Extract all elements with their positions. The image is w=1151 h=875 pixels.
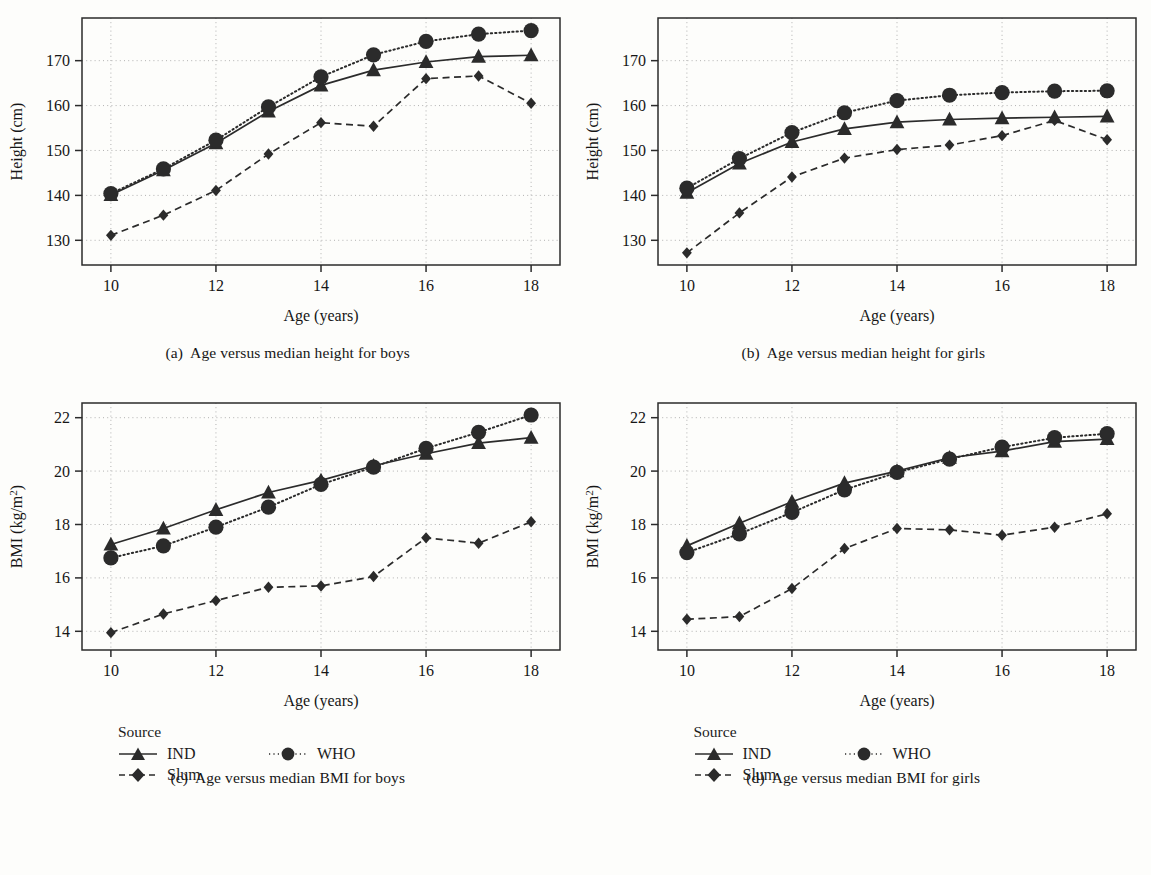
diamond-marker <box>839 152 849 163</box>
y-tick-label: 150 <box>622 142 646 159</box>
y-tick-label: 170 <box>46 52 70 69</box>
circle-marker <box>418 34 433 49</box>
y-tick-label: 160 <box>46 97 70 114</box>
caption-d: (d)Age versus median BMI for girls <box>576 765 1151 875</box>
y-axis-title: BMI (kg/m2) <box>583 485 602 568</box>
x-tick-label: 10 <box>678 277 694 294</box>
circle-marker <box>261 500 276 515</box>
diamond-marker <box>474 537 484 548</box>
plot-area-a: 1012141618130140150160170Age (years)Heig… <box>8 18 560 325</box>
circle-marker <box>836 482 851 497</box>
figure-panel-grid: 1012141618130140150160170Age (years)Heig… <box>0 0 1151 875</box>
y-tick-label: 16 <box>630 569 646 586</box>
caption-a-text: Age versus median height for boys <box>190 344 410 361</box>
triangle-marker <box>524 430 539 444</box>
y-tick-label: 140 <box>46 187 70 204</box>
diamond-marker <box>106 230 116 241</box>
diamond-marker <box>997 130 1007 141</box>
x-tick-label: 12 <box>208 662 224 679</box>
y-axis-title: Height (cm) <box>8 103 26 181</box>
x-tick-label: 10 <box>103 277 119 294</box>
x-axis-title: Age (years) <box>283 307 358 325</box>
circle-marker <box>103 186 118 201</box>
circle-marker <box>471 425 486 440</box>
circle-marker <box>836 105 851 120</box>
diamond-marker <box>316 580 326 591</box>
diamond-marker <box>734 207 744 218</box>
legend-item-ind-right[interactable]: IND <box>694 744 844 764</box>
circle-marker-icon <box>268 744 308 764</box>
legend-label-who-left: WHO <box>317 745 355 763</box>
caption-d-label: (d) <box>746 769 764 786</box>
circle-marker <box>784 505 799 520</box>
circle-marker <box>366 47 381 62</box>
plot-frame <box>658 18 1136 265</box>
y-tick-label: 20 <box>54 463 70 480</box>
y-tick-label: 22 <box>54 409 70 426</box>
diamond-marker <box>839 543 849 554</box>
circle-marker <box>313 477 328 492</box>
circle-marker <box>679 545 694 560</box>
diamond-marker <box>1049 521 1059 532</box>
diamond-marker <box>892 144 902 155</box>
chart-panel-b: 1012141618130140150160170Age (years)Heig… <box>576 0 1151 340</box>
series-line-who <box>686 434 1106 553</box>
circle-marker <box>1046 430 1061 445</box>
circle-marker <box>1046 84 1061 99</box>
chart-svg-c: 10121416181416182022Age (years)BMI (kg/m… <box>0 385 575 725</box>
chart-panel-a: 1012141618130140150160170Age (years)Heig… <box>0 0 576 340</box>
x-tick-label: 12 <box>208 277 224 294</box>
diamond-marker <box>1102 134 1112 145</box>
chart-svg-b: 1012141618130140150160170Age (years)Heig… <box>576 0 1151 340</box>
x-tick-label: 12 <box>783 662 799 679</box>
x-tick-label: 10 <box>103 662 119 679</box>
caption-b: (b)Age versus median height for girls <box>576 340 1151 385</box>
diamond-marker <box>421 532 431 543</box>
circle-marker <box>1099 83 1114 98</box>
y-tick-label: 18 <box>630 516 646 533</box>
caption-c-label: (c) <box>170 769 188 786</box>
chart-svg-d: 10121416181416182022Age (years)BMI (kg/m… <box>576 385 1151 725</box>
circle-marker <box>103 550 118 565</box>
diamond-marker <box>997 529 1007 540</box>
diamond-marker <box>944 524 954 535</box>
legend-label-ind-right: IND <box>743 745 771 763</box>
y-tick-label: 160 <box>622 97 646 114</box>
x-tick-label: 18 <box>523 662 539 679</box>
diamond-marker <box>159 209 169 220</box>
plot-area-c: 10121416181416182022Age (years)BMI (kg/m… <box>7 403 560 710</box>
x-axis-title: Age (years) <box>859 307 934 325</box>
x-tick-label: 16 <box>418 662 434 679</box>
legend-item-ind-left[interactable]: IND <box>118 744 268 764</box>
series-slum <box>681 508 1111 625</box>
x-axis-title: Age (years) <box>283 692 358 710</box>
circle-marker <box>941 88 956 103</box>
circle-marker <box>524 23 539 38</box>
caption-c-text: Age versus median BMI for boys <box>195 769 405 786</box>
diamond-marker <box>681 247 691 258</box>
diamond-marker <box>681 614 691 625</box>
x-tick-label: 16 <box>418 277 434 294</box>
x-tick-label: 14 <box>889 277 905 294</box>
x-axis-title: Age (years) <box>859 692 934 710</box>
plot-frame <box>82 18 560 265</box>
y-tick-label: 130 <box>46 232 70 249</box>
diamond-marker <box>369 121 379 132</box>
caption-a: (a)Age versus median height for boys <box>0 340 576 385</box>
circle-marker <box>208 520 223 535</box>
y-tick-label: 14 <box>630 623 646 640</box>
y-axis-title: Height (cm) <box>584 103 602 181</box>
circle-marker <box>994 439 1009 454</box>
legend-item-who-left[interactable]: WHO <box>268 744 576 764</box>
circle-marker <box>994 85 1009 100</box>
y-tick-label: 22 <box>630 409 646 426</box>
circle-marker <box>679 181 694 196</box>
diamond-marker <box>106 627 116 638</box>
diamond-marker <box>787 583 797 594</box>
y-tick-label: 170 <box>622 52 646 69</box>
legend-item-who-right[interactable]: WHO <box>844 744 1151 764</box>
x-tick-label: 16 <box>994 277 1010 294</box>
caption-b-label: (b) <box>741 344 759 361</box>
chart-panel-c: 10121416181416182022Age (years)BMI (kg/m… <box>0 385 576 725</box>
triangle-marker <box>156 521 171 535</box>
